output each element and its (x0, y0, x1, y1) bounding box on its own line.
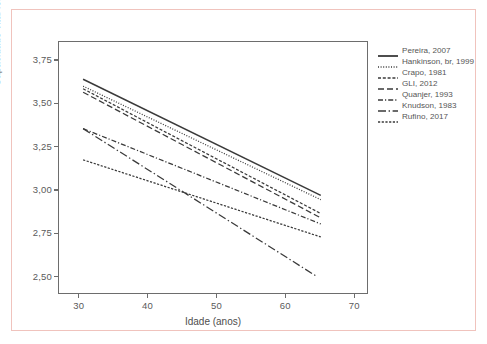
x-tick-label: 40 (128, 300, 168, 311)
legend-item: Pereira, 2007 (378, 45, 483, 56)
legend-item: Hankinson, br, 1999 (378, 56, 483, 67)
y-tick-label: 3,50 (12, 97, 52, 108)
series-line (83, 79, 321, 195)
figure-container: Capacidade vital forçada (L) 2,502,753,0… (0, 0, 487, 344)
y-axis-title: Capacidade vital forçada (L) (0, 0, 2, 86)
legend-item: Rufino, 2017 (378, 111, 483, 122)
legend-line-swatch (378, 68, 398, 76)
x-tick-mark (285, 294, 286, 298)
legend-line-swatch (378, 101, 398, 109)
legend-item-label: Pereira, 2007 (402, 46, 451, 55)
legend-item: GLI, 2012 (378, 78, 483, 89)
legend-item-label: Crapo, 1981 (402, 68, 447, 77)
legend-line-swatch (378, 57, 398, 65)
y-tick-label: 2,50 (12, 271, 52, 282)
legend-line-swatch (378, 112, 398, 120)
plot-area (58, 41, 368, 294)
x-tick-label: 50 (196, 300, 236, 311)
legend-item: Crapo, 1981 (378, 67, 483, 78)
series-line (83, 92, 321, 218)
x-tick-mark (147, 294, 148, 298)
series-line (83, 89, 321, 214)
legend-item: Knudson, 1983 (378, 100, 483, 111)
chart-lines-svg (59, 42, 369, 295)
x-tick-mark (78, 294, 79, 298)
legend-item-label: Rufino, 2017 (402, 112, 448, 121)
x-tick-mark (216, 294, 217, 298)
legend-item-label: Knudson, 1983 (402, 101, 456, 110)
y-tick-mark (54, 103, 58, 104)
legend-item-label: Hankinson, br, 1999 (402, 57, 474, 66)
legend-item-label: GLI, 2012 (402, 79, 438, 88)
y-tick-label: 3,25 (12, 141, 52, 152)
legend-line-swatch (378, 46, 398, 54)
x-axis-title: Idade (anos) (58, 316, 368, 327)
y-tick-mark (54, 189, 58, 190)
chart-legend: Pereira, 2007Hankinson, br, 1999Crapo, 1… (378, 45, 483, 122)
x-tick-label: 30 (59, 300, 99, 311)
x-tick-label: 60 (265, 300, 305, 311)
series-line (83, 129, 321, 224)
legend-line-swatch (378, 79, 398, 87)
y-tick-label: 3,75 (12, 54, 52, 65)
y-tick-mark (54, 146, 58, 147)
legend-line-swatch (378, 90, 398, 98)
y-tick-label: 3,00 (12, 184, 52, 195)
x-tick-label: 70 (334, 300, 374, 311)
y-tick-mark (54, 59, 58, 60)
legend-item-label: Quanjer, 1993 (402, 90, 453, 99)
y-tick-label: 2,75 (12, 227, 52, 238)
legend-item: Quanjer, 1993 (378, 89, 483, 100)
x-tick-mark (354, 294, 355, 298)
y-tick-mark (54, 276, 58, 277)
y-tick-mark (54, 233, 58, 234)
